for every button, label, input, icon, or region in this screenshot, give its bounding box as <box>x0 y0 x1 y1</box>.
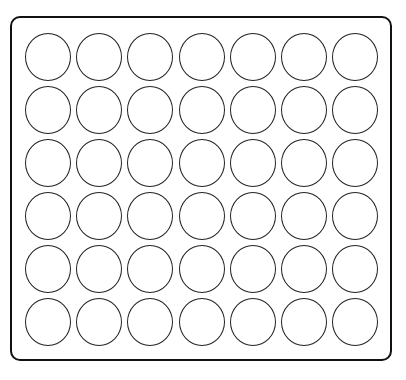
grid-cell-r3-c4[interactable] <box>179 139 225 187</box>
grid-cell-r3-c3[interactable] <box>127 139 173 187</box>
grid-cell-r3-c7[interactable] <box>332 139 378 187</box>
grid-cell-r5-c7[interactable] <box>332 245 378 293</box>
circle-grid <box>0 0 406 380</box>
grid-cell-r2-c2[interactable] <box>76 86 122 134</box>
grid-cell-r6-c3[interactable] <box>127 298 173 346</box>
grid-cell-r4-c2[interactable] <box>76 192 122 240</box>
grid-cell-r1-c6[interactable] <box>281 33 327 81</box>
grid-cell-r5-c6[interactable] <box>281 245 327 293</box>
grid-cell-r1-c3[interactable] <box>127 33 173 81</box>
grid-cell-r1-c1[interactable] <box>25 33 71 81</box>
grid-cell-r2-c5[interactable] <box>230 86 276 134</box>
grid-cell-r2-c6[interactable] <box>281 86 327 134</box>
grid-cell-r4-c4[interactable] <box>179 192 225 240</box>
grid-cell-r4-c6[interactable] <box>281 192 327 240</box>
grid-cell-r5-c4[interactable] <box>179 245 225 293</box>
grid-cell-r4-c3[interactable] <box>127 192 173 240</box>
grid-cell-r2-c3[interactable] <box>127 86 173 134</box>
grid-cell-r2-c4[interactable] <box>179 86 225 134</box>
grid-cell-r3-c1[interactable] <box>25 139 71 187</box>
grid-cell-r5-c3[interactable] <box>127 245 173 293</box>
grid-cell-r2-c1[interactable] <box>25 86 71 134</box>
grid-cell-r1-c7[interactable] <box>332 33 378 81</box>
grid-cell-r2-c7[interactable] <box>332 86 378 134</box>
grid-cell-r3-c6[interactable] <box>281 139 327 187</box>
grid-cell-r6-c4[interactable] <box>179 298 225 346</box>
grid-cell-r6-c2[interactable] <box>76 298 122 346</box>
grid-cell-r5-c1[interactable] <box>25 245 71 293</box>
grid-cell-r6-c7[interactable] <box>332 298 378 346</box>
grid-cell-r1-c5[interactable] <box>230 33 276 81</box>
grid-cell-r4-c5[interactable] <box>230 192 276 240</box>
grid-cell-r4-c1[interactable] <box>25 192 71 240</box>
grid-cell-r6-c5[interactable] <box>230 298 276 346</box>
grid-cell-r1-c2[interactable] <box>76 33 122 81</box>
grid-cell-r4-c7[interactable] <box>332 192 378 240</box>
grid-cell-r6-c1[interactable] <box>25 298 71 346</box>
grid-cell-r1-c4[interactable] <box>179 33 225 81</box>
grid-cell-r6-c6[interactable] <box>281 298 327 346</box>
grid-cell-r5-c5[interactable] <box>230 245 276 293</box>
grid-cell-r5-c2[interactable] <box>76 245 122 293</box>
grid-cell-r3-c2[interactable] <box>76 139 122 187</box>
grid-cell-r3-c5[interactable] <box>230 139 276 187</box>
